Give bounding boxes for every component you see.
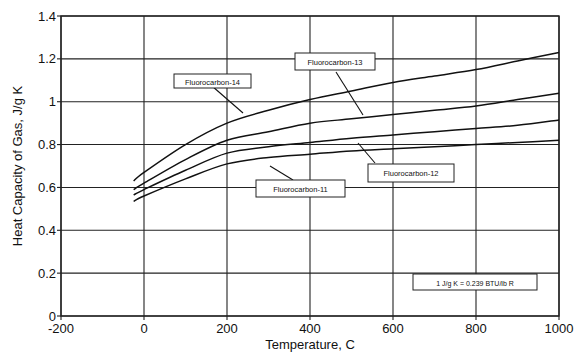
label-fc14-text: Fluorocarbon-14 — [185, 78, 240, 87]
conversion-note: 1 J/g K = 0.239 BTU/lb R — [413, 274, 537, 290]
y-tick-label: 0.6 — [38, 180, 56, 195]
x-tick-label: 800 — [465, 321, 487, 336]
curve-fluorocarbon-12 — [134, 120, 559, 195]
y-tick-label: 0 — [49, 309, 56, 324]
y-tick-label: 1.4 — [38, 9, 56, 24]
label-fc13-text: Fluorocarbon-13 — [307, 58, 362, 67]
heat-capacity-chart: -20002004006008001000 00.20.40.60.811.21… — [0, 0, 585, 361]
y-tick-label: 1.2 — [38, 51, 56, 66]
x-axis-ticks: -20002004006008001000 — [48, 316, 573, 336]
label-fc14: Fluorocarbon-14 — [174, 74, 251, 88]
curve-fluorocarbon-14 — [134, 52, 559, 181]
leader-fc12 — [358, 143, 375, 163]
label-fc13: Fluorocarbon-13 — [295, 53, 375, 70]
x-tick-label: 0 — [140, 321, 147, 336]
label-fc12-text: Fluorocarbon-12 — [383, 169, 438, 178]
x-tick-label: 200 — [216, 321, 238, 336]
y-tick-label: 0.2 — [38, 266, 56, 281]
x-tick-label: 600 — [382, 321, 404, 336]
leader-fc11 — [270, 166, 293, 180]
x-axis-label: Temperature, C — [265, 337, 355, 352]
x-tick-label: 1000 — [545, 321, 574, 336]
y-tick-label: 0.8 — [38, 137, 56, 152]
curve-fluorocarbon-11 — [134, 140, 559, 201]
label-fc11-text: Fluorocarbon-11 — [273, 185, 327, 194]
conversion-note-text: 1 J/g K = 0.239 BTU/lb R — [436, 280, 514, 288]
label-fc12: Fluorocarbon-12 — [368, 164, 454, 182]
y-tick-label: 0.4 — [38, 223, 56, 238]
curve-fluorocarbon-13 — [134, 93, 559, 189]
label-fc11: Fluorocarbon-11 — [256, 180, 345, 197]
y-axis-label: Heat Capacity of Gas, J/g K — [10, 85, 25, 246]
y-axis-ticks: 00.20.40.60.811.21.4 — [38, 9, 61, 324]
y-tick-label: 1 — [49, 94, 56, 109]
x-tick-label: 400 — [299, 321, 321, 336]
